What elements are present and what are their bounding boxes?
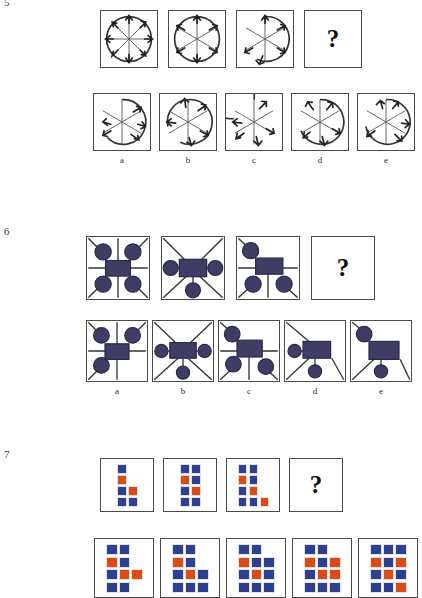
grid-cell-blue — [383, 582, 394, 593]
grid-cell-blue — [238, 544, 249, 555]
question-mark: ? — [290, 459, 342, 511]
grid-cell-blue — [395, 544, 406, 555]
grid-cell-orange — [395, 557, 406, 568]
q5-option-c[interactable]: c — [225, 93, 283, 165]
shape-composition-icon — [153, 321, 213, 381]
grid-cell-orange — [119, 569, 130, 580]
circle-arrows-icon — [226, 94, 282, 150]
q5-option-b[interactable]: b — [159, 93, 217, 165]
q5-option-a[interactable]: a — [93, 93, 151, 165]
q7-option-e[interactable] — [358, 538, 418, 598]
q6-sequence-item-1[interactable] — [86, 236, 150, 300]
q5-sequence-item-3[interactable] — [236, 10, 294, 68]
q6-option-e[interactable]: e — [350, 320, 412, 396]
grid-cell-blue — [119, 557, 130, 568]
grid-cell-blue — [119, 544, 130, 555]
grid-cell-blue — [304, 569, 315, 580]
q6-option-c-label: c — [247, 386, 251, 396]
q5-option-d[interactable]: d — [291, 93, 349, 165]
q7-sequence-row: ? — [100, 458, 343, 512]
q6-option-c[interactable]: c — [218, 320, 280, 396]
grid-cell-orange — [251, 569, 262, 580]
grid-cell-blue — [238, 582, 249, 593]
grid-cell-blue — [370, 582, 381, 593]
grid-cell-orange — [172, 557, 183, 568]
grid-cell-orange — [238, 475, 248, 485]
q7-sequence-item-3[interactable] — [226, 458, 280, 512]
q7-option-a[interactable] — [94, 538, 154, 598]
grid-cell-blue — [317, 582, 328, 593]
q7-option-c[interactable] — [226, 538, 286, 598]
q7-option-d[interactable] — [292, 538, 352, 598]
q5-option-a-label: a — [120, 155, 124, 165]
q7-option-b[interactable] — [160, 538, 220, 598]
circle-arrows-icon — [169, 11, 225, 67]
block-grid — [100, 458, 154, 512]
q5-sequence-item-2[interactable] — [168, 10, 226, 68]
q6-option-e-label: e — [379, 386, 383, 396]
q6-option-a[interactable]: a — [86, 320, 148, 396]
grid-cell-blue — [172, 582, 183, 593]
q7-sequence-item-1[interactable] — [100, 458, 154, 512]
question-mark: ? — [305, 11, 361, 67]
circle-arrows-icon — [94, 94, 150, 150]
q6-answer-box[interactable]: ? — [311, 236, 375, 300]
q6-option-d[interactable]: d — [284, 320, 346, 396]
shape-composition-icon — [162, 237, 224, 299]
grid-cell-blue — [180, 464, 190, 474]
grid-cell-blue — [117, 486, 127, 496]
grid-cell-orange — [106, 557, 117, 568]
q5-answer-box[interactable]: ? — [304, 10, 362, 68]
question-number-5: 5 — [4, 0, 10, 8]
q7-sequence-item-2[interactable] — [163, 458, 217, 512]
circle-arrows-icon — [101, 11, 157, 67]
grid-cell-blue — [191, 464, 201, 474]
shape-composition-icon — [237, 237, 299, 299]
grid-cell-blue — [238, 464, 248, 474]
grid-cell-orange — [117, 475, 127, 485]
grid-cell-blue — [185, 544, 196, 555]
grid-cell-orange — [304, 557, 315, 568]
q6-options-row: a b — [86, 320, 412, 396]
grid-cell-blue — [106, 582, 117, 593]
block-grid — [226, 458, 280, 512]
grid-cell-blue — [251, 544, 262, 555]
q6-sequence-item-3[interactable] — [236, 236, 300, 300]
grid-cell-blue — [383, 557, 394, 568]
grid-cell-blue — [317, 544, 328, 555]
q5-sequence-item-1[interactable] — [100, 10, 158, 68]
grid-cell-blue — [117, 464, 127, 474]
grid-cell-orange — [395, 582, 406, 593]
grid-cell-orange — [249, 486, 259, 496]
grid-cell-blue — [263, 569, 274, 580]
q7-answer-box[interactable]: ? — [289, 458, 343, 512]
grid-cell-blue — [238, 497, 248, 507]
grid-cell-orange — [238, 557, 249, 568]
grid-cell-orange — [128, 486, 138, 496]
q5-option-e[interactable]: e — [357, 93, 415, 165]
grid-cell-blue — [191, 475, 201, 485]
block-grid — [292, 538, 352, 598]
q5-options-row: a b — [93, 93, 415, 165]
q6-option-b[interactable]: b — [152, 320, 214, 396]
grid-cell-orange — [180, 475, 190, 485]
grid-cell-blue — [185, 582, 196, 593]
grid-cell-blue — [172, 569, 183, 580]
grid-cell-blue — [180, 486, 190, 496]
grid-cell-orange — [131, 569, 142, 580]
grid-cell-blue — [383, 544, 394, 555]
shape-composition-icon — [87, 237, 149, 299]
block-grid — [226, 538, 286, 598]
q5-option-c-label: c — [252, 155, 256, 165]
grid-cell-blue — [329, 582, 340, 593]
circle-arrows-icon — [292, 94, 348, 150]
grid-cell-orange — [317, 569, 328, 580]
q5-option-d-label: d — [318, 155, 323, 165]
q6-sequence-item-2[interactable] — [161, 236, 225, 300]
grid-cell-blue — [197, 569, 208, 580]
q5-option-e-label: e — [384, 155, 388, 165]
grid-cell-blue — [172, 544, 183, 555]
grid-cell-orange — [260, 497, 270, 507]
block-grid — [160, 538, 220, 598]
shape-composition-icon — [285, 321, 345, 381]
